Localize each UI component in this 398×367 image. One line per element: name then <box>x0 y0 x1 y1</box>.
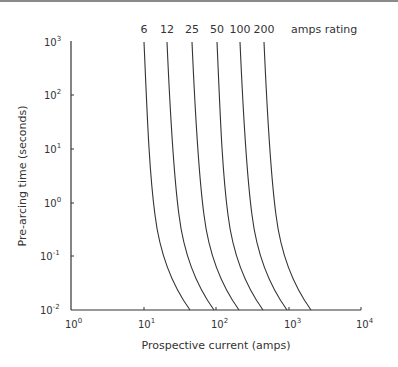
y-axis-title: Pre-arcing time (seconds) <box>16 106 29 247</box>
legend-title: amps rating <box>291 23 357 36</box>
svg-text:50: 50 <box>210 23 224 36</box>
svg-text:12: 12 <box>160 23 174 36</box>
svg-text:10-1: 10-1 <box>40 249 60 262</box>
curve-100a <box>240 42 287 310</box>
curves <box>144 42 311 310</box>
svg-text:103: 103 <box>44 35 61 48</box>
curve-200a <box>264 42 311 310</box>
curve-25a <box>192 42 239 310</box>
x-tick-labels: 100 101 102 103 104 <box>65 317 374 330</box>
svg-text:101: 101 <box>44 142 61 155</box>
svg-text:100: 100 <box>65 317 82 330</box>
svg-text:10-2: 10-2 <box>40 303 60 316</box>
curve-12a <box>167 42 214 310</box>
curve-50a <box>217 42 263 310</box>
x-axis-title: Prospective current (amps) <box>141 339 290 352</box>
svg-text:104: 104 <box>356 317 374 330</box>
svg-text:102: 102 <box>211 317 228 330</box>
svg-text:100: 100 <box>230 23 251 36</box>
svg-text:200: 200 <box>254 23 275 36</box>
svg-text:6: 6 <box>141 23 148 36</box>
svg-text:100: 100 <box>44 196 61 209</box>
curve-6a <box>144 42 190 310</box>
fuse-characteristic-chart: 103 102 101 100 10-1 10-2 100 101 102 10… <box>0 0 398 367</box>
svg-text:103: 103 <box>284 317 301 330</box>
svg-text:25: 25 <box>185 23 199 36</box>
rating-labels: 6 12 25 50 100 200 amps rating <box>141 23 358 36</box>
svg-text:102: 102 <box>44 88 61 101</box>
y-tick-labels: 103 102 101 100 10-1 10-2 <box>40 35 61 316</box>
svg-text:101: 101 <box>138 317 155 330</box>
